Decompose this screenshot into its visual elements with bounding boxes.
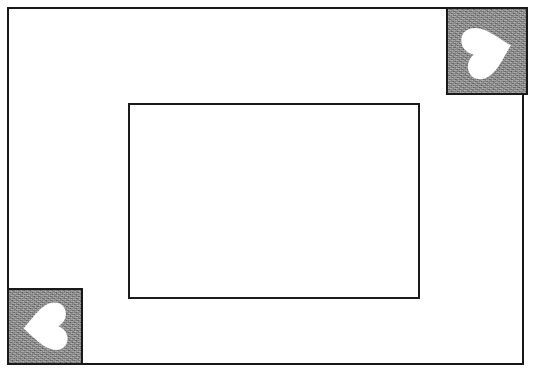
page-canvas bbox=[0, 0, 534, 372]
heart-icon bbox=[20, 301, 69, 353]
heart-marker-top-right bbox=[446, 7, 528, 95]
heart-marker-bottom-left bbox=[7, 288, 83, 365]
heart-icon bbox=[457, 18, 519, 82]
heart-container bbox=[9, 290, 81, 363]
inner-rectangle bbox=[128, 103, 420, 299]
caption-strip bbox=[0, 0, 534, 3]
heart-container bbox=[448, 9, 526, 93]
